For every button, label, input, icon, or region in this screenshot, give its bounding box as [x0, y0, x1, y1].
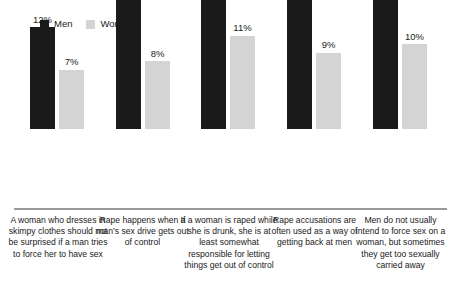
bar-men-2: 21%	[201, 0, 226, 129]
bar-women-4: 10%	[402, 0, 427, 129]
bar-value-women-0: 7%	[65, 57, 79, 67]
bar-group-3: 21% 9%	[284, 0, 344, 129]
bar-rect-men-1	[116, 0, 141, 129]
x-axis-baseline	[14, 208, 447, 210]
bar-men-4: 21%	[373, 0, 398, 129]
category-label-4: Men do not usually intend to force sex o…	[352, 215, 449, 271]
bar-value-women-4: 10%	[405, 32, 424, 42]
bar-group-4: 21% 10%	[370, 0, 430, 129]
bar-rect-women-0	[59, 70, 84, 129]
bar-rect-women-1	[145, 61, 170, 129]
bar-rect-men-4	[373, 0, 398, 129]
bar-value-women-1: 8%	[151, 49, 165, 59]
bar-group-1: 16% 8%	[113, 0, 173, 129]
bar-value-women-3: 9%	[322, 40, 336, 50]
bar-value-men-0: 12%	[33, 15, 52, 25]
bar-group-0: 12% 7%	[27, 0, 87, 129]
plot-area: 12% 7% 16% 8% 21% 11%	[0, 0, 455, 210]
bar-women-2: 11%	[230, 0, 255, 129]
bar-chart: Men Women 12% 7% 16% 8%	[0, 0, 455, 289]
bar-women-0: 7%	[59, 0, 84, 129]
category-label-2: If a woman is raped while she is drunk, …	[180, 215, 278, 271]
category-label-3: Rape accusations are often used as a way…	[268, 215, 361, 249]
bar-women-1: 8%	[145, 0, 170, 129]
bar-women-3: 9%	[316, 0, 341, 129]
bar-rect-men-2	[201, 0, 226, 129]
category-label-1: Rape happens when a man’s sex drive gets…	[96, 215, 189, 249]
bar-rect-women-3	[316, 53, 341, 129]
bar-group-2: 21% 11%	[198, 0, 258, 129]
bar-men-0: 12%	[30, 0, 55, 129]
bar-men-1: 16%	[116, 0, 141, 129]
category-label-0: A woman who dresses in skimpy clothes sh…	[8, 215, 108, 260]
bar-rect-women-2	[230, 36, 255, 129]
bar-men-3: 21%	[287, 0, 312, 129]
bar-rect-men-0	[30, 27, 55, 129]
bar-rect-women-4	[402, 44, 427, 129]
bar-value-women-2: 11%	[233, 23, 251, 33]
bar-rect-men-3	[287, 0, 312, 129]
